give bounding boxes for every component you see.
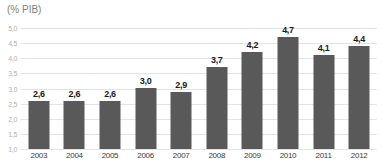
- y-tick-label: 3,5: [0, 70, 17, 77]
- y-tick-label: 1,5: [0, 131, 17, 138]
- bar-2007: [171, 92, 192, 149]
- x-tick-label: 2010: [270, 151, 306, 160]
- bar-slot: 2,6: [21, 28, 57, 149]
- bar-2006: [135, 88, 156, 149]
- bar-value-label: 2,6: [104, 89, 116, 99]
- x-axis: 2003200420052006200720082009201020112012: [21, 151, 377, 160]
- bar-value-label: 2,9: [175, 80, 187, 90]
- x-tick-label: 2008: [199, 151, 235, 160]
- bars-row: 2,62,62,63,02,93,74,24,74,14,4: [21, 28, 377, 149]
- bar-slot: 4,2: [235, 28, 271, 149]
- bar-slot: 4,1: [306, 28, 342, 149]
- plot-area: 2,62,62,63,02,93,74,24,74,14,4: [21, 28, 377, 149]
- bar-slot: 2,6: [92, 28, 128, 149]
- bar-slot: 2,6: [57, 28, 93, 149]
- bar-value-label: 4,2: [247, 40, 259, 50]
- x-tick-label: 2011: [306, 151, 342, 160]
- x-tick-label: 2003: [21, 151, 57, 160]
- bar-2008: [206, 67, 227, 149]
- bar-2010: [277, 37, 298, 149]
- x-tick-label: 2007: [163, 151, 199, 160]
- y-tick-label: 2,0: [0, 116, 17, 123]
- bar-slot: 3,0: [128, 28, 164, 149]
- bar-2011: [313, 55, 334, 149]
- bar-2005: [99, 101, 120, 149]
- bar-value-label: 3,7: [211, 55, 223, 65]
- bar-value-label: 4,4: [353, 34, 365, 44]
- x-tick-label: 2009: [235, 151, 271, 160]
- bar-slot: 4,4: [341, 28, 377, 149]
- y-tick-label: 4,0: [0, 55, 17, 62]
- x-tick-label: 2004: [57, 151, 93, 160]
- bar-slot: 2,9: [163, 28, 199, 149]
- bar-2003: [28, 101, 49, 149]
- bar-2012: [349, 46, 370, 149]
- bar-value-label: 2,6: [69, 89, 81, 99]
- y-tick-label: 1,0: [0, 146, 17, 153]
- bar-2004: [64, 101, 85, 149]
- bar-slot: 3,7: [199, 28, 235, 149]
- bar-value-label: 2,6: [33, 89, 45, 99]
- y-tick-label: 4,5: [0, 40, 17, 47]
- x-tick-label: 2012: [341, 151, 377, 160]
- y-tick-label: 5,0: [0, 25, 17, 32]
- y-tick-label: 3,0: [0, 86, 17, 93]
- bar-value-label: 3,0: [140, 76, 152, 86]
- y-tick-label: 2,5: [0, 101, 17, 108]
- bar-value-label: 4,7: [282, 25, 294, 35]
- bar-chart: (% PIB) 2,62,62,63,02,93,74,24,74,14,4 2…: [0, 0, 382, 168]
- x-tick-label: 2006: [128, 151, 164, 160]
- bar-2009: [242, 52, 263, 149]
- bar-slot: 4,7: [270, 28, 306, 149]
- x-tick-label: 2005: [92, 151, 128, 160]
- gridline: [21, 149, 377, 150]
- bar-value-label: 4,1: [318, 43, 330, 53]
- chart-title: (% PIB): [7, 4, 41, 15]
